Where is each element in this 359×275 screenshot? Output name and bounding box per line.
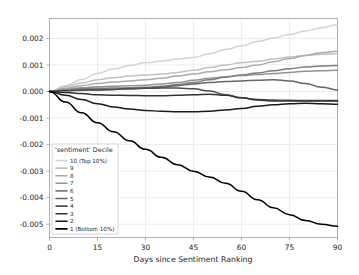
y-tick-label: -0.003 [20, 167, 44, 176]
y-tick-label: 0.000 [22, 87, 43, 96]
legend-item-label[interactable]: 5 [70, 196, 74, 202]
legend-item-label[interactable]: 1 (Bottom 10%) [70, 226, 114, 232]
y-tick-label: 0.001 [22, 61, 43, 70]
legend-item-label[interactable]: 4 [70, 203, 74, 209]
legend-item-label[interactable]: 3 [70, 211, 74, 217]
x-axis-label: Days since Sentiment Ranking [134, 255, 253, 264]
y-tick-label: -0.001 [20, 114, 44, 123]
y-tick-label: -0.002 [20, 140, 44, 149]
x-tick-label: 45 [189, 243, 199, 252]
x-tick-label: 60 [237, 243, 247, 252]
legend-item-label[interactable]: 10 (Top 10%) [70, 158, 107, 165]
y-tick-label: -0.005 [20, 220, 44, 229]
legend-item-label[interactable]: 2 [70, 218, 74, 224]
x-tick-label: 15 [93, 243, 103, 252]
chart-legend[interactable]: 'sentiment' Decile10 (Top 10%)987654321 … [52, 144, 118, 234]
y-tick-label: 0.002 [22, 34, 43, 43]
legend-item-label[interactable]: 7 [70, 180, 74, 186]
x-tick-label: 75 [285, 243, 295, 252]
legend-item-label[interactable]: 9 [70, 165, 74, 171]
legend-item-label[interactable]: 6 [70, 188, 74, 194]
x-tick-label: 90 [333, 243, 343, 252]
chart-figure: 0153045607590 0.0020.0010.000-0.001-0.00… [0, 0, 359, 275]
legend-item-label[interactable]: 8 [70, 173, 74, 179]
x-tick-label: 0 [47, 243, 52, 252]
line-chart: 0153045607590 0.0020.0010.000-0.001-0.00… [0, 0, 359, 275]
y-tick-label: -0.004 [20, 193, 44, 202]
x-tick-label: 30 [141, 243, 151, 252]
legend-title: 'sentiment' Decile [55, 146, 113, 154]
